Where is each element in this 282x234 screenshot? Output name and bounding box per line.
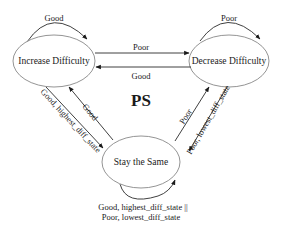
edge-label-decrease-self: Poor [221, 13, 237, 23]
edge-label-increase-to-decrease: Poor [133, 42, 149, 52]
edge-label-stay-self-line1: Good, highest_diff_state || [98, 202, 188, 212]
edge-label-decrease-to-stay: Poor, lowest_diff_state [184, 83, 232, 156]
edge-label-increase-self: Good [45, 13, 65, 23]
edge-label-decrease-to-increase: Good [132, 71, 152, 81]
node-label: Increase Difficulty [18, 56, 90, 66]
edge-label-stay-self-line2: Poor, lowest_diff_state [102, 212, 181, 222]
edge-label-stay-to-decrease: Poor [177, 107, 194, 126]
node-decrease-difficulty: Decrease Difficulty [189, 35, 269, 87]
node-increase-difficulty: Increase Difficulty [13, 35, 95, 87]
node-stay-the-same: Stay the Same [102, 136, 180, 188]
edge-label-stay-to-increase: Good [80, 102, 100, 123]
node-label: Stay the Same [114, 157, 168, 167]
node-label: Decrease Difficulty [192, 56, 267, 66]
diagram-title: PS [131, 91, 151, 110]
state-diagram: Increase Difficulty Decrease Difficulty … [0, 0, 282, 234]
